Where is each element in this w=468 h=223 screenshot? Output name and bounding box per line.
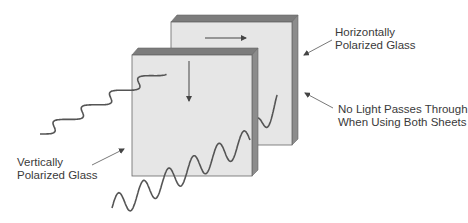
back-sheet-side-bevel	[292, 15, 298, 145]
no-light-label-pointer	[305, 93, 333, 108]
label-line: Vertically	[17, 156, 98, 169]
label-line: Polarized Glass	[17, 169, 98, 182]
vertical-polarized-glass-label: Vertically Polarized Glass	[17, 156, 98, 181]
front-sheet-side-bevel	[252, 48, 258, 176]
label-line: No Light Passes Through	[338, 103, 468, 116]
front-sheet-top-bevel	[132, 48, 258, 55]
horizontal-label-pointer	[304, 40, 332, 55]
label-line: Polarized Glass	[335, 39, 416, 52]
label-line: When Using Both Sheets	[338, 116, 468, 129]
label-line: Horizontally	[335, 26, 416, 39]
no-light-passes-label: No Light Passes Through When Using Both …	[338, 103, 468, 128]
horizontal-polarized-glass-label: Horizontally Polarized Glass	[335, 26, 416, 51]
back-sheet-top-bevel	[171, 15, 298, 22]
